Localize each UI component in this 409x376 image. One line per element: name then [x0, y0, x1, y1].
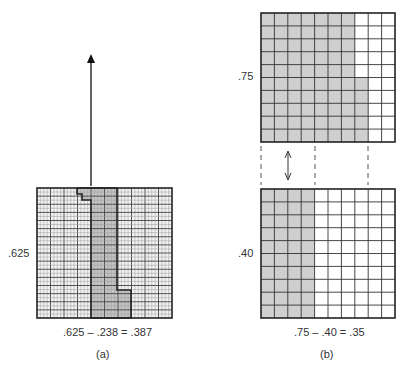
up-arrow-icon [87, 54, 95, 63]
panel-b-caption: (b) [320, 348, 333, 360]
panel-b-equation: .75 – .40 = .35 [294, 326, 365, 338]
panel-b-bottom-side-label: .40 [238, 247, 253, 259]
panel-b-top-grid-partial-shade [355, 78, 368, 143]
panel-a-side-label: .625 [8, 247, 29, 259]
panel-a-equation: .625 – .238 = .387 [63, 326, 152, 338]
panel-a-caption: (a) [96, 348, 109, 360]
panel-b-top-side-label: .75 [238, 70, 253, 82]
diagram-canvas [0, 0, 409, 376]
